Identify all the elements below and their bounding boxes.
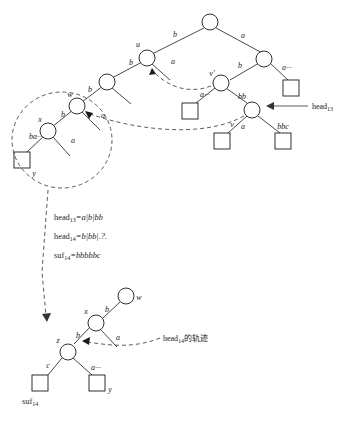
edge-label-root-left: b — [173, 30, 177, 39]
edge-l-w — [82, 86, 103, 102]
region-arrowhead — [42, 313, 51, 322]
edge-label-r-right: a··· — [282, 63, 292, 72]
node-label-lower-y: y — [107, 385, 112, 394]
edge-label-vp-right: bb — [238, 92, 246, 101]
node-v — [244, 102, 260, 118]
circle-region-label: ba··· — [29, 132, 43, 141]
edge-label-v-right: bbc — [277, 122, 289, 131]
head14-trace-line — [88, 338, 160, 345]
edge-label-x-right: a — [71, 136, 75, 145]
head13-label: head13 — [312, 102, 333, 112]
node-label-vprime: v' — [209, 69, 215, 78]
upper-tree-nodes — [14, 14, 299, 168]
edge-root-u — [152, 28, 204, 54]
edge-lz-left — [48, 358, 62, 375]
edge-label-lz-left: c — [46, 361, 50, 370]
equation-head14: head14=b|bb|.?. — [54, 232, 107, 242]
node-vprime — [213, 75, 229, 91]
edge-label-r-left: b — [238, 61, 242, 70]
leaf-v-left — [214, 133, 230, 149]
edge-label-x-left: b — [61, 110, 65, 119]
node-lower-w — [118, 288, 134, 304]
head14-trace-arrowhead — [82, 337, 90, 345]
edge-u-left — [112, 62, 142, 78]
edge-label-root-right: a — [241, 31, 245, 40]
head14-trace-label: head14的轨迹 — [163, 333, 208, 344]
edge-l-stub — [112, 88, 131, 104]
edge-r-vp — [230, 63, 259, 80]
node-label-lower-z: z — [55, 336, 60, 345]
dashed-region-circle — [12, 92, 112, 188]
edge-label-v-left: a — [241, 122, 245, 131]
node-w — [69, 98, 85, 114]
node-label-lower-x: x — [83, 307, 88, 316]
edge-x-stub — [53, 137, 70, 156]
head13-arrowhead — [266, 102, 274, 110]
suffix-link-vprime-u — [152, 70, 211, 89]
leaf-vprime-left — [182, 103, 198, 119]
node-label-x: x — [37, 115, 42, 124]
edge-label-u-right: a — [171, 57, 175, 66]
suf14-label: suf14 — [22, 397, 38, 407]
node-root — [202, 14, 218, 30]
edge-label-lx-lw: b — [105, 305, 109, 314]
node-label-w: w — [67, 90, 73, 99]
edge-label-lx-lz: b — [76, 331, 80, 340]
edge-u-right — [152, 64, 170, 80]
edge-lz-right — [73, 358, 92, 375]
head14-trace-pointer: head14的轨迹 — [82, 333, 208, 345]
leaf-lower-suf — [32, 375, 48, 391]
node-label-u: u — [136, 40, 140, 49]
edge-label-lx-a: a — [116, 333, 120, 342]
equation-suf14: suf14=bbbbbc — [54, 251, 101, 261]
node-lower-x — [88, 315, 104, 331]
edge-label-w-in: b — [88, 85, 92, 94]
node-u-left — [99, 74, 115, 90]
node-root-right — [256, 51, 272, 67]
node-u — [139, 50, 155, 66]
figure-canvas: b a b a b a b a b a··· a··· bb a bbc u w… — [0, 0, 352, 423]
node-label-y: y — [31, 169, 36, 178]
head13-pointer: head13 — [266, 102, 333, 112]
leaf-root-right — [283, 80, 299, 96]
node-label-v: v — [230, 120, 234, 129]
leaf-v-right — [275, 133, 291, 149]
arrowhead-to-u — [149, 68, 156, 75]
region-to-lower-arrow — [42, 190, 51, 322]
edge-label-vp-left: a··· — [200, 90, 210, 99]
node-label-lower-w: w — [136, 293, 142, 302]
leaf-lower-y — [89, 375, 105, 391]
edge-label-lz-right: a··· — [91, 363, 101, 372]
node-lower-z — [60, 344, 76, 360]
equation-head13: head13=a|b|bb — [54, 213, 103, 223]
edge-label-u-left: b — [129, 58, 133, 67]
equations-block: head13=a|b|bb head14=b|bb|.?. suf14=bbbb… — [54, 213, 107, 261]
region-arrow-line — [42, 190, 48, 316]
suffix-link-v-w — [90, 114, 244, 130]
